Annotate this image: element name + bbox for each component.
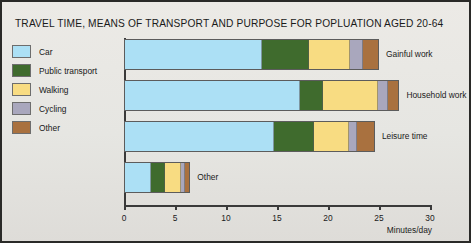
- bar-segment[interactable]: [309, 39, 351, 70]
- bar-category-label: Leisure time: [382, 131, 428, 141]
- x-axis-tick-label: 20: [323, 213, 332, 223]
- x-axis-tick-label: 10: [221, 213, 230, 223]
- bar-segment[interactable]: [349, 121, 356, 152]
- stacked-bar[interactable]: [124, 39, 379, 70]
- legend-item[interactable]: Car: [12, 42, 112, 61]
- legend-item-label: Walking: [39, 85, 68, 95]
- plot-area: Minutes/day 051015202530Gainful workHous…: [124, 38, 430, 205]
- bar-segment[interactable]: [185, 162, 190, 193]
- legend-color-swatch: [12, 121, 31, 134]
- legend-item-label: Cycling: [39, 104, 66, 114]
- page-title: TRAVEL TIME, MEANS OF TRANSPORT AND PURP…: [15, 18, 443, 29]
- bar-segment[interactable]: [350, 39, 362, 70]
- legend-item[interactable]: Other: [12, 118, 112, 137]
- x-axis-title: Minutes/day: [387, 225, 432, 235]
- x-axis-tick: [430, 205, 432, 210]
- bar-segment[interactable]: [124, 39, 262, 70]
- bar-segment[interactable]: [124, 121, 274, 152]
- stacked-bar[interactable]: [124, 162, 190, 193]
- bar-segment[interactable]: [165, 162, 181, 193]
- x-axis-tick: [277, 205, 279, 210]
- legend-item-label: Car: [39, 47, 53, 57]
- x-axis-tick: [379, 205, 381, 210]
- bar-category-label: Household work: [406, 90, 466, 100]
- x-axis-tick: [226, 205, 228, 210]
- bar-segment[interactable]: [363, 39, 379, 70]
- legend-item[interactable]: Cycling: [12, 99, 112, 118]
- x-axis-tick: [175, 205, 177, 210]
- stacked-bar[interactable]: [124, 121, 375, 152]
- legend-item[interactable]: Walking: [12, 80, 112, 99]
- bar-category-label: Gainful work: [386, 49, 433, 59]
- bar-segment[interactable]: [314, 121, 350, 152]
- x-axis-tick: [328, 205, 330, 210]
- bar-segment[interactable]: [323, 80, 378, 111]
- bar-segment[interactable]: [124, 80, 300, 111]
- stacked-bar[interactable]: [124, 80, 399, 111]
- x-axis-tick-label: 5: [173, 213, 178, 223]
- bar-category-label: Other: [197, 172, 218, 182]
- chart-figure: TRAVEL TIME, MEANS OF TRANSPORT AND PURP…: [0, 0, 471, 243]
- legend-color-swatch: [12, 64, 31, 77]
- bar-segment[interactable]: [262, 39, 309, 70]
- x-axis-tick-label: 30: [425, 213, 434, 223]
- x-axis-tick: [124, 205, 126, 210]
- bar-segment[interactable]: [151, 162, 165, 193]
- x-axis-tick-label: 25: [374, 213, 383, 223]
- legend-color-swatch: [12, 83, 31, 96]
- bar-segment[interactable]: [300, 80, 322, 111]
- x-axis-tick-label: 0: [122, 213, 127, 223]
- chart-legend: CarPublic transportWalkingCyclingOther: [12, 42, 112, 137]
- x-axis-tick-label: 15: [272, 213, 281, 223]
- legend-item-label: Other: [39, 123, 60, 133]
- bar-segment[interactable]: [388, 80, 399, 111]
- bar-segment[interactable]: [274, 121, 314, 152]
- legend-color-swatch: [12, 45, 31, 58]
- bar-segment[interactable]: [124, 162, 151, 193]
- legend-color-swatch: [12, 102, 31, 115]
- bar-segment[interactable]: [378, 80, 388, 111]
- bar-segment[interactable]: [357, 121, 375, 152]
- legend-item-label: Public transport: [39, 66, 97, 76]
- legend-item[interactable]: Public transport: [12, 61, 112, 80]
